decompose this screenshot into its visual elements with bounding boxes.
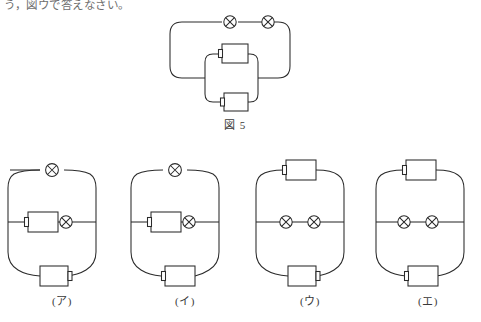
option-i-label: (イ) <box>125 292 245 308</box>
option-a-top-lamp <box>46 164 59 177</box>
option-a-circuit-svg <box>2 160 122 290</box>
option-i[interactable]: (イ) <box>125 160 245 322</box>
option-a-middle-resistor <box>25 212 59 232</box>
option-e-bottom-resistor <box>405 266 439 286</box>
option-i-top-lamp <box>169 164 182 177</box>
option-i-bottom-resistor <box>162 266 196 286</box>
option-e-circuit-svg <box>368 160 481 290</box>
option-i-middle-lamp <box>181 216 195 228</box>
figure-5-circuit-svg <box>160 8 310 118</box>
answer-options-row: (ア) <box>0 160 481 322</box>
figure-5-caption: 図 5 <box>160 116 310 132</box>
option-u-top-resistor <box>283 160 317 180</box>
option-u-middle-lamp-1 <box>280 216 292 228</box>
option-e-middle-lamp-2 <box>426 216 438 228</box>
fig5-lamp-2 <box>262 16 274 28</box>
option-i-circuit-svg <box>125 160 245 290</box>
option-u-label: (ウ) <box>250 292 370 308</box>
option-u-circuit-svg <box>250 160 370 290</box>
top-sentence-text: う，図ウで答えなさい。 <box>4 0 130 12</box>
option-i-middle-resistor <box>148 212 182 232</box>
option-a[interactable]: (ア) <box>2 160 122 322</box>
fig5-resistor-lower <box>221 93 249 111</box>
option-a-label: (ア) <box>2 292 122 308</box>
option-u-bottom-resistor <box>288 266 320 286</box>
option-e[interactable]: (エ) <box>368 160 481 322</box>
option-e-label: (エ) <box>368 292 481 308</box>
fig5-resistor-upper <box>219 44 249 63</box>
option-e-middle-lamp-1 <box>398 216 410 228</box>
fig5-lamp-1 <box>224 16 236 28</box>
option-u[interactable]: (ウ) <box>250 160 370 322</box>
figure-5: 図 5 <box>160 8 310 138</box>
option-e-top-resistor <box>403 160 437 180</box>
worksheet-page: う，図ウで答えなさい。 <box>0 0 481 322</box>
option-a-middle-lamp <box>58 216 72 228</box>
option-u-middle-lamp-2 <box>308 216 320 228</box>
option-a-bottom-resistor <box>40 266 72 286</box>
